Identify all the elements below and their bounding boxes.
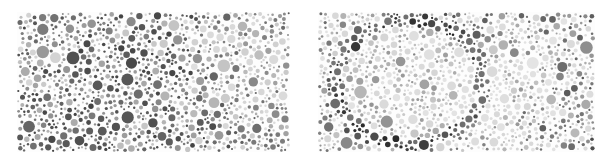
- dot-plate-panel-right: [318, 12, 595, 152]
- dot-plate-panel-left: [17, 12, 290, 152]
- dot-plate-figure: [0, 0, 609, 163]
